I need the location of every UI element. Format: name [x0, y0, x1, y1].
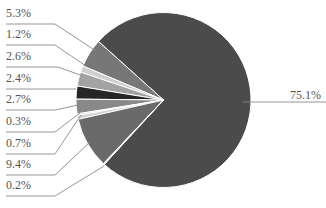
- slice-label: 2.4%: [6, 71, 31, 85]
- slice-label: 0.3%: [6, 114, 31, 128]
- slice-label: 2.6%: [6, 49, 31, 63]
- slice-label: 75.1%: [290, 88, 321, 102]
- pie-slices: [76, 12, 251, 187]
- slice-label: 1.2%: [6, 27, 31, 41]
- slice-label: 5.3%: [6, 6, 31, 20]
- slice-label: 0.2%: [6, 178, 31, 192]
- pie-chart: 75.1%5.3%1.2%2.6%2.4%2.7%0.3%0.7%9.4%0.2…: [0, 0, 326, 208]
- slice-label: 2.7%: [6, 92, 31, 106]
- slice-label: 0.7%: [6, 136, 31, 150]
- slice-label: 9.4%: [6, 157, 31, 171]
